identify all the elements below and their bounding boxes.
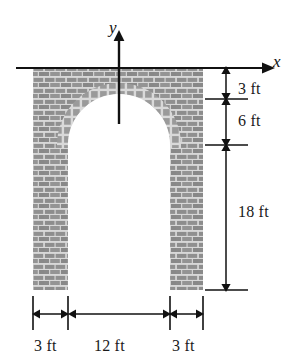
arrowhead-left [68, 309, 76, 318]
dimension-3ft-left [32, 309, 69, 318]
dimension-label-opening-width: 12 ft [94, 337, 125, 355]
dimension-12ft [68, 309, 171, 318]
dimension-18ft-vertical [221, 143, 230, 292]
horizontal-dimensions [32, 296, 204, 330]
dimension-label-pier-height: 18 ft [238, 203, 269, 221]
dimension-label-arch-rise: 6 ft [238, 112, 261, 130]
dimension-label-right-pier-width: 3 ft [172, 337, 195, 355]
dimension-3ft-vertical [221, 66, 230, 101]
arch-diagram [0, 0, 299, 363]
dimension-3ft-right [169, 309, 204, 318]
vertical-dimensions [205, 66, 248, 292]
y-axis-label: y [109, 18, 117, 38]
dimension-6ft-vertical [221, 97, 230, 147]
dimension-label-top-band: 3 ft [238, 80, 261, 98]
dimension-label-left-pier-width: 3 ft [34, 337, 57, 355]
figure-root: x y 3 ft 6 ft 18 ft 3 ft 12 ft 3 ft [0, 0, 299, 363]
x-axis-label: x [273, 52, 281, 72]
